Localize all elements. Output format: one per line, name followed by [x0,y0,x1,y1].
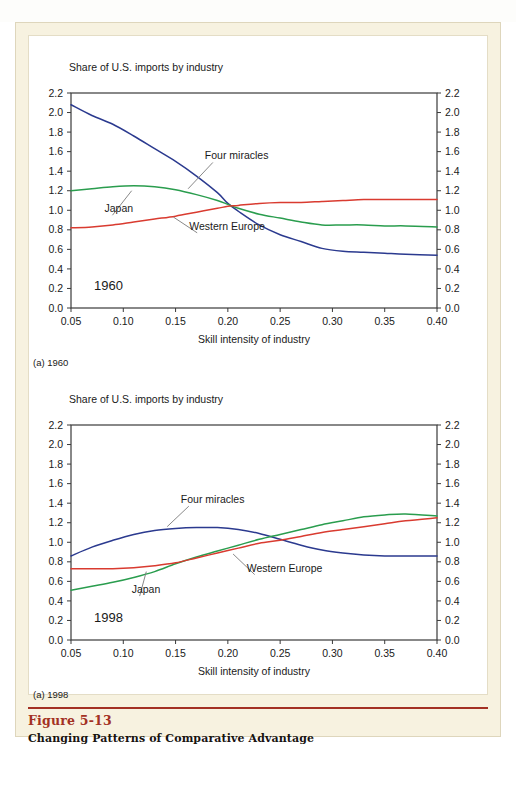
year-label: 1960 [94,278,123,293]
y-tick-label-right: 1.2 [445,516,460,528]
x-tick-label: 0.05 [61,315,82,327]
y-tick-label-right: 2.0 [445,438,460,450]
y-tick-label: 1.4 [48,165,63,177]
y-tick-label: 1.4 [48,497,63,509]
y-tick-label: 0.2 [48,282,63,294]
x-tick-label: 0.35 [374,647,395,659]
y-tick-label-right: 0.2 [445,282,460,294]
y-tick-label-right: 0.0 [445,634,460,646]
y-tick-label: 2.0 [48,438,63,450]
x-tick-label: 0.10 [113,647,134,659]
y-tick-label-right: 0.0 [445,302,460,314]
series-line-four-miracles [71,527,437,556]
y-tick-label: 0.4 [48,263,63,275]
y-tick-label-right: 0.2 [445,614,460,626]
y-tick-label-right: 1.4 [445,497,460,509]
y-tick-label: 0.6 [48,575,63,587]
y-tick-label: 0.8 [48,223,63,235]
y-tick-label: 2.2 [48,87,63,99]
figure-box: Share of U.S. imports by industry0.00.00… [15,22,501,737]
y-tick-label-right: 2.2 [445,419,460,431]
chart-svg-panel-1960: Share of U.S. imports by industry0.00.00… [29,40,489,370]
figure-title: Changing Patterns of Comparative Advanta… [28,732,314,745]
y-tick-label: 1.0 [48,536,63,548]
x-tick-label: 0.40 [427,315,448,327]
x-tick-label: 0.15 [165,315,186,327]
chart-1960: Share of U.S. imports by industry0.00.00… [29,40,489,370]
x-axis-label: Skill intensity of industry [198,665,311,677]
y-tick-label-right: 0.8 [445,555,460,567]
y-tick-label-right: 1.0 [445,536,460,548]
x-tick-label: 0.30 [322,315,343,327]
y-tick-label: 1.6 [48,145,63,157]
panel-caption: (a) 1960 [33,357,68,368]
leader-line-four-miracles [167,506,189,526]
annotation-japan: Japan [132,583,161,595]
y-tick-label: 1.8 [48,458,63,470]
y-tick-label: 0.0 [48,634,63,646]
chart-headline: Share of U.S. imports by industry [69,61,224,73]
y-tick-label-right: 0.8 [445,223,460,235]
y-tick-label-right: 0.4 [445,263,460,275]
figure-number: Figure 5-13 [28,713,112,728]
y-tick-label-right: 2.0 [445,106,460,118]
x-tick-label: 0.15 [165,647,186,659]
figure-caption-block: Figure 5-13 Changing Patterns of Compara… [28,707,488,751]
y-tick-label: 1.0 [48,204,63,216]
y-tick-label-right: 1.8 [445,458,460,470]
y-tick-label: 1.6 [48,477,63,489]
y-tick-label-right: 0.6 [445,243,460,255]
y-tick-label-right: 2.2 [445,87,460,99]
chart-headline: Share of U.S. imports by industry [69,393,224,405]
x-tick-label: 0.25 [270,647,291,659]
x-tick-label: 0.20 [218,647,239,659]
caption-rule [28,707,488,709]
x-tick-label: 0.20 [218,315,239,327]
y-tick-label: 2.0 [48,106,63,118]
y-tick-label: 0.2 [48,614,63,626]
x-tick-label: 0.40 [427,647,448,659]
textbook-page: Share of U.S. imports by industry0.00.00… [0,0,516,787]
annotation-western-europe: Western Europe [247,562,323,574]
annotation-japan: Japan [104,202,133,214]
leader-line-four-miracles [188,162,213,188]
plot-frame [71,93,437,308]
chart-svg-panel-1998: Share of U.S. imports by industry0.00.00… [29,372,489,702]
series-line-japan [71,514,437,590]
x-tick-label: 0.35 [374,315,395,327]
y-tick-label-right: 0.6 [445,575,460,587]
y-tick-label: 2.2 [48,419,63,431]
x-tick-label: 0.10 [113,315,134,327]
panel-caption: (a) 1998 [33,689,68,700]
annotation-four-miracles: Four miracles [181,493,245,505]
y-tick-label: 1.2 [48,516,63,528]
y-tick-label-right: 1.4 [445,165,460,177]
annotation-four-miracles: Four miracles [205,149,269,161]
y-tick-label: 0.4 [48,595,63,607]
year-label: 1998 [94,610,123,625]
y-tick-label-right: 1.6 [445,477,460,489]
y-tick-label-right: 0.4 [445,595,460,607]
x-tick-label: 0.05 [61,647,82,659]
x-axis-label: Skill intensity of industry [198,333,311,345]
charts-panel: Share of U.S. imports by industry0.00.00… [28,35,488,695]
x-tick-label: 0.30 [322,647,343,659]
chart-1998: Share of U.S. imports by industry0.00.00… [29,372,489,702]
page-top-strip [0,0,516,22]
x-tick-label: 0.25 [270,315,291,327]
y-tick-label-right: 1.2 [445,184,460,196]
series-line-four-miracles [71,105,437,256]
y-tick-label-right: 1.6 [445,145,460,157]
y-tick-label: 1.2 [48,184,63,196]
y-tick-label: 1.8 [48,126,63,138]
y-tick-label: 0.6 [48,243,63,255]
annotation-western-europe: Western Europe [189,220,265,232]
y-tick-label-right: 1.0 [445,204,460,216]
y-tick-label: 0.8 [48,555,63,567]
y-tick-label-right: 1.8 [445,126,460,138]
y-tick-label: 0.0 [48,302,63,314]
